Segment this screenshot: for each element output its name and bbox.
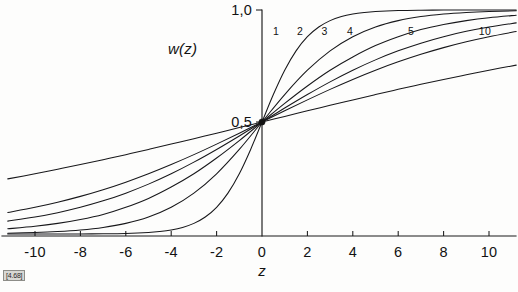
figure-container: -10-8-6-4-202468100,51,01234510w(z)z [4.… [0, 0, 518, 292]
x-tick-label-0: -10 [24, 244, 46, 260]
x-tick-label-8: 6 [394, 244, 402, 260]
marked-point-0 [259, 119, 265, 125]
x-tick-label-10: 10 [481, 244, 498, 260]
x-tick-label-9: 8 [439, 244, 447, 260]
curve-label-4: 4 [347, 25, 353, 37]
marked-points-group [259, 119, 265, 125]
y-axis-title: w(z) [168, 40, 197, 57]
x-tick-label-2: -6 [119, 244, 132, 260]
x-tick-label-7: 4 [349, 244, 357, 260]
curve-label-10: 10 [479, 25, 491, 37]
curve-label-5: 5 [408, 25, 414, 37]
y-tick-label-0: 0,5 [231, 114, 252, 130]
y-tick-label-1: 1,0 [231, 2, 252, 18]
x-tick-label-4: -2 [210, 244, 223, 260]
x-tick-label-6: 2 [303, 244, 311, 260]
x-tick-label-3: -4 [165, 244, 178, 260]
curve-label-3: 3 [322, 25, 328, 37]
x-axis-title: z [258, 262, 266, 279]
x-tick-label-5: 0 [258, 244, 266, 260]
curve-label-1: 1 [273, 25, 279, 37]
curve-label-2: 2 [297, 25, 303, 37]
figure-reference-tag: [4.68] [3, 270, 25, 281]
x-tick-label-1: -8 [74, 244, 87, 260]
